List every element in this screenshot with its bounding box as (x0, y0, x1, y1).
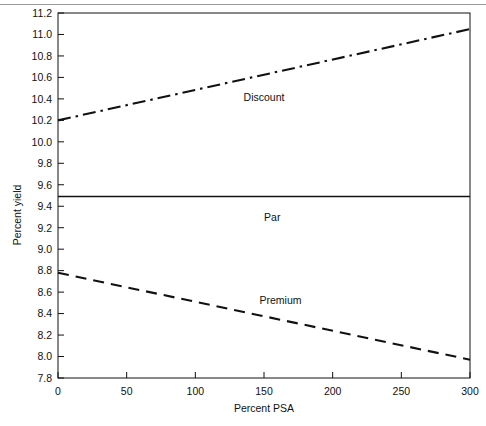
x-tick-label: 50 (121, 385, 133, 397)
series-label-discount: Discount (244, 91, 285, 103)
x-axis-tick-labels: 050100150200250300 (55, 385, 479, 397)
plot-area-border (58, 13, 470, 378)
y-tick-label: 10.0 (32, 136, 53, 148)
x-tick-label: 150 (255, 385, 273, 397)
x-tick-label: 200 (324, 385, 342, 397)
y-axis-title: Percent yield (11, 184, 23, 245)
chart-figure: 7.88.08.28.48.68.89.09.29.49.69.810.010.… (0, 0, 486, 426)
chart-canvas: 7.88.08.28.48.68.89.09.29.49.69.810.010.… (0, 0, 486, 426)
y-tick-label: 8.2 (37, 329, 52, 341)
y-tick-label: 10.8 (32, 50, 53, 62)
y-tick-label: 9.2 (37, 222, 52, 234)
y-tick-label: 8.0 (37, 350, 52, 362)
series-label-premium: Premium (259, 294, 301, 306)
series-label-par: Par (264, 211, 281, 223)
y-tick-label: 10.6 (32, 71, 53, 83)
y-tick-label: 7.8 (37, 372, 52, 384)
y-tick-label: 9.6 (37, 179, 52, 191)
y-tick-label: 9.0 (37, 243, 52, 255)
data-series-group (58, 29, 470, 360)
x-axis-tick-marks (58, 372, 470, 378)
x-tick-label: 300 (461, 385, 479, 397)
y-tick-label: 9.4 (37, 200, 52, 212)
y-tick-label: 8.8 (37, 264, 52, 276)
y-tick-label: 10.4 (32, 93, 53, 105)
x-tick-label: 0 (55, 385, 61, 397)
y-axis-tick-marks (58, 13, 64, 378)
y-tick-label: 8.6 (37, 286, 52, 298)
y-tick-label: 8.4 (37, 307, 52, 319)
x-axis-title: Percent PSA (234, 402, 294, 414)
x-tick-label: 250 (393, 385, 411, 397)
series-line-premium (58, 273, 470, 360)
y-axis-tick-labels: 7.88.08.28.48.68.89.09.29.49.69.810.010.… (32, 7, 53, 384)
y-tick-label: 10.2 (32, 114, 53, 126)
series-line-discount (58, 29, 470, 120)
y-tick-label: 9.8 (37, 157, 52, 169)
y-tick-label: 11.0 (32, 28, 52, 40)
series-annotation-group: DiscountParPremium (244, 91, 302, 306)
y-tick-label: 11.2 (32, 7, 52, 19)
x-tick-label: 100 (187, 385, 205, 397)
